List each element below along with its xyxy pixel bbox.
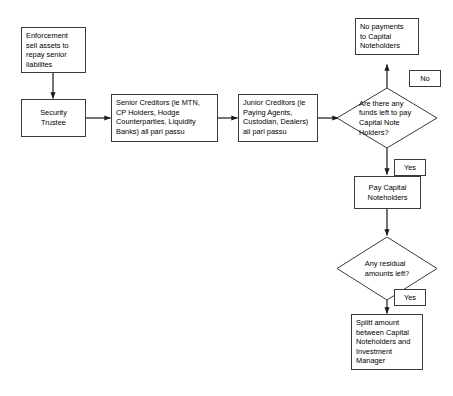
edge-label-no: No [409, 70, 441, 87]
node-pay-capital-noteholders[interactable]: Pay Capital Noteholders [354, 176, 421, 209]
edge-label-yes-residual: Yes [394, 289, 426, 306]
node-security-trustee[interactable]: Security Trustee [21, 99, 86, 137]
flowchart-canvas: Enforcement sell assets to repay senior … [0, 0, 453, 396]
diamond-shape [337, 88, 437, 148]
node-junior-creditors[interactable]: Junior Creditors (ie Paying Agents, Cust… [238, 94, 318, 142]
node-senior-creditors[interactable]: Senior Creditors (ie MTN, CP Holders, Ho… [111, 94, 218, 142]
node-no-payments[interactable]: No payments to Capital Noteholders [355, 18, 419, 55]
node-enforcement[interactable]: Enforcement sell assets to repay senior … [21, 27, 86, 73]
node-split-amount[interactable]: Splitt amount between Capital Noteholder… [351, 314, 423, 370]
node-funds-left-decision[interactable]: Are there any funds left to pay Capital … [337, 88, 437, 148]
edge-label-yes-funds: Yes [394, 159, 426, 176]
